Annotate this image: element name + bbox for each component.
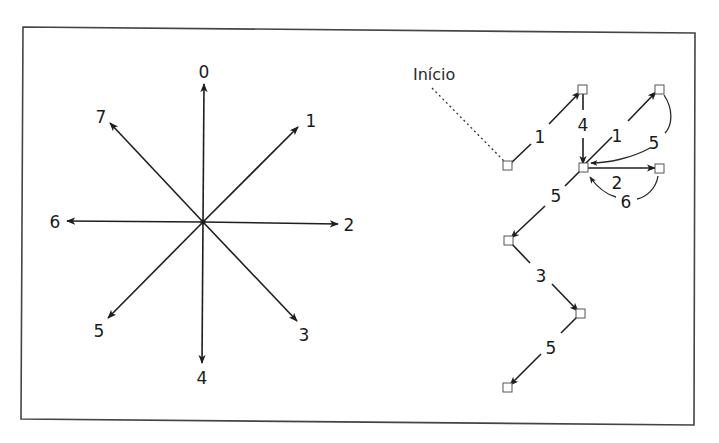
arrow-dir-6 — [67, 221, 203, 222]
node-start — [503, 161, 512, 170]
segment-label-4: 5 — [649, 133, 660, 153]
segment-1-b — [549, 92, 580, 124]
segment-label-7: 5 — [551, 186, 562, 206]
segment-label-9: 5 — [546, 338, 557, 358]
segment-label-8: 3 — [536, 266, 547, 286]
compass-label-7: 7 — [96, 107, 107, 127]
node-b — [579, 163, 588, 172]
segment-7-b — [511, 206, 545, 238]
arrow-dir-2 — [203, 222, 338, 224]
arrow-dir-4 — [202, 222, 203, 363]
segment-6-a — [637, 176, 658, 199]
segment-label-1: 1 — [535, 127, 546, 147]
segment-3-a — [585, 137, 612, 164]
node-c — [655, 85, 664, 94]
node-g — [503, 383, 512, 392]
chain-code-path: Início 1 4 1 5 2 6 5 3 — [413, 65, 671, 392]
start-leader — [432, 88, 505, 162]
segment-8-b — [552, 284, 578, 311]
segment-9-b — [510, 354, 541, 385]
segment-label-6: 6 — [621, 192, 632, 212]
arrow-dir-3 — [203, 222, 297, 321]
compass-label-4: 4 — [197, 368, 208, 388]
compass-label-5: 5 — [94, 321, 105, 341]
node-e — [504, 236, 513, 245]
arrow-dir-1 — [203, 127, 298, 222]
segment-label-2: 4 — [578, 115, 589, 135]
compass-center — [201, 220, 206, 225]
compass-label-1: 1 — [306, 111, 317, 131]
compass-label-0: 0 — [199, 62, 210, 82]
segment-label-5: 2 — [612, 173, 623, 193]
direction-compass: 0 1 2 3 4 5 6 7 — [50, 62, 355, 388]
segment-label-3: 1 — [612, 126, 623, 146]
node-a — [578, 85, 587, 94]
figure-frame — [21, 27, 695, 425]
arrow-dir-7 — [110, 123, 203, 222]
segment-3-b — [628, 92, 656, 121]
node-d — [655, 164, 664, 173]
segment-4-a — [664, 95, 671, 133]
chain-code-figure: 0 1 2 3 4 5 6 7 Início 1 4 1 5 2 — [0, 0, 719, 443]
arrow-dir-0 — [203, 84, 204, 222]
start-label: Início — [413, 65, 455, 84]
arrow-dir-5 — [108, 222, 203, 318]
compass-label-6: 6 — [50, 212, 61, 232]
node-f — [576, 309, 585, 318]
compass-label-3: 3 — [299, 325, 310, 345]
segment-1-a — [510, 144, 531, 164]
compass-label-2: 2 — [344, 215, 355, 235]
